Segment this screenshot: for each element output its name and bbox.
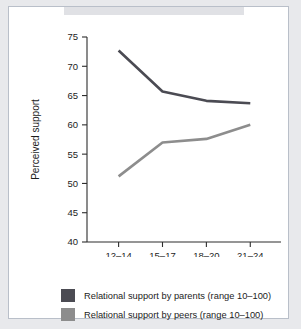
y-axis-title: Perceived support (30, 99, 41, 180)
y-tick-label: 65 (67, 90, 78, 101)
data-series-group (119, 50, 251, 176)
legend-swatch-parents (61, 289, 75, 302)
y-tick-label: 55 (67, 149, 78, 160)
legend-label-peers: Relational support by peers (range 10–10… (84, 310, 263, 320)
y-tick-label: 70 (67, 61, 78, 72)
y-axis: 4045505560657075 (67, 31, 87, 247)
x-tick-label: 15–17 (149, 250, 175, 257)
x-tick-label: 18–20 (193, 250, 219, 257)
legend-label-parents: Relational support by parents (range 10–… (84, 291, 271, 301)
legend-item-parents: Relational support by parents (range 10–… (61, 287, 285, 304)
y-tick-label: 60 (67, 119, 78, 130)
chart-legend: Relational support by parents (range 10–… (61, 287, 285, 325)
legend-swatch-peers (61, 308, 75, 321)
x-tick-label: 12–14 (105, 250, 131, 257)
y-tick-label: 45 (67, 207, 78, 218)
series-line-parents (119, 50, 251, 103)
x-tick-label: 21–24 (237, 250, 263, 257)
y-tick-label: 40 (67, 236, 78, 247)
series-line-peers (119, 125, 251, 177)
y-tick-label: 50 (67, 178, 78, 189)
chart-figure-card: 4045505560657075 12–1415–1718–2021–24 Pe… (8, 6, 289, 319)
legend-item-peers: Relational support by peers (range 10–10… (61, 306, 285, 323)
y-tick-label: 75 (67, 31, 78, 42)
plot-area: 4045505560657075 12–1415–1718–2021–24 Pe… (9, 7, 288, 257)
x-axis: 12–1415–1718–2021–24 (87, 242, 281, 257)
line-chart-svg: 4045505560657075 12–1415–1718–2021–24 Pe… (9, 7, 288, 257)
